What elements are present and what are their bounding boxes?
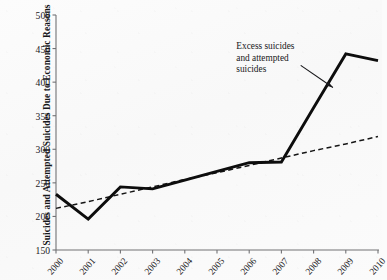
y-axis-tick-label: 400 xyxy=(22,77,50,88)
annotation-line-1: Excess suicides xyxy=(236,41,294,53)
y-axis-tick-label: 250 xyxy=(22,177,50,188)
y-axis-tick-label: 350 xyxy=(22,110,50,121)
data-line-solid xyxy=(56,54,378,219)
y-axis-tick-label: 500 xyxy=(22,10,50,21)
y-axis-tick-label: 150 xyxy=(22,245,50,256)
annotation-line-2: and attempted xyxy=(236,53,294,65)
annotation-arrow-icon xyxy=(301,65,333,87)
y-axis-tick-label: 300 xyxy=(22,144,50,155)
y-axis-tick-label: 200 xyxy=(22,211,50,222)
axes xyxy=(53,15,380,254)
annotation-line-3: suicides xyxy=(236,64,294,76)
y-axis-tick-label: 450 xyxy=(22,43,50,54)
excess-suicides-annotation: Excess suicidesand attemptedsuicides xyxy=(236,41,294,76)
